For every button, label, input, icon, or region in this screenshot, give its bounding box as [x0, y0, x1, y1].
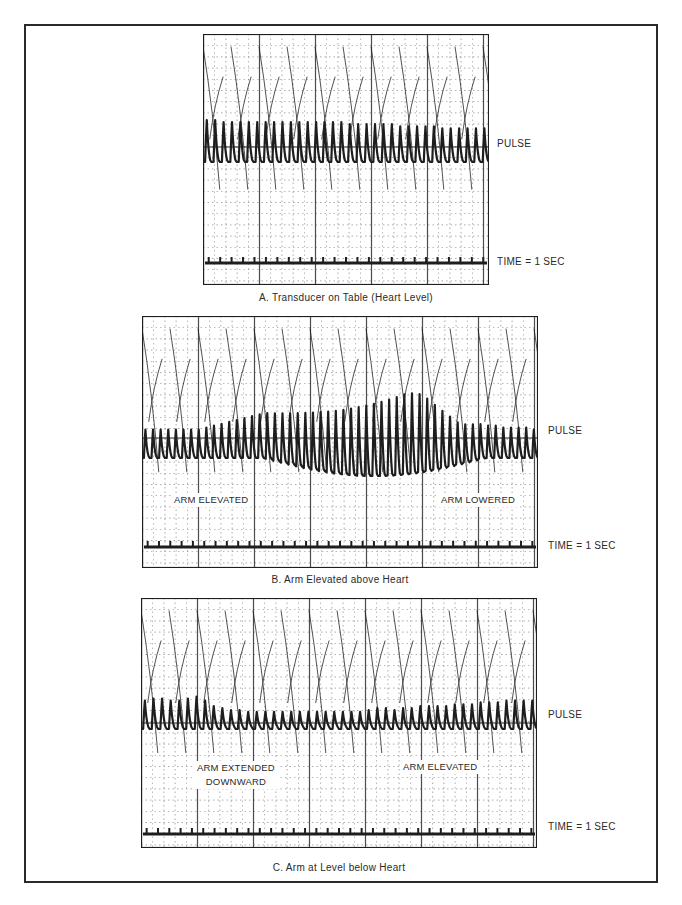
caption-b: B. Arm Elevated above Heart: [142, 574, 538, 585]
annotation-arm-lowered-b: ARM LOWERED: [438, 493, 518, 507]
time-label-a: TIME = 1 SEC: [497, 256, 565, 267]
caption-c: C. Arm at Level below Heart: [141, 862, 537, 873]
pulse-label-c: PULSE: [548, 709, 582, 720]
strip-chart-panel-b: [142, 316, 538, 568]
pulse-label-a: PULSE: [497, 138, 531, 149]
annotation-arm-elevated-b: ARM ELEVATED: [171, 493, 251, 507]
time-label-b: TIME = 1 SEC: [548, 540, 616, 551]
annotation-arm-extended-downward-c: ARM EXTENDED DOWNWARD: [194, 761, 278, 789]
strip-chart-panel-a: [203, 34, 489, 285]
strip-chart-panel-c: [141, 598, 537, 848]
pulse-label-b: PULSE: [548, 425, 582, 436]
caption-a: A. Transducer on Table (Heart Level): [203, 292, 489, 303]
time-label-c: TIME = 1 SEC: [548, 821, 616, 832]
annotation-arm-elevated-c: ARM ELEVATED: [400, 760, 480, 774]
strip-chart-b: [142, 316, 538, 568]
strip-chart-a: [203, 34, 489, 285]
strip-chart-c: [141, 598, 537, 848]
